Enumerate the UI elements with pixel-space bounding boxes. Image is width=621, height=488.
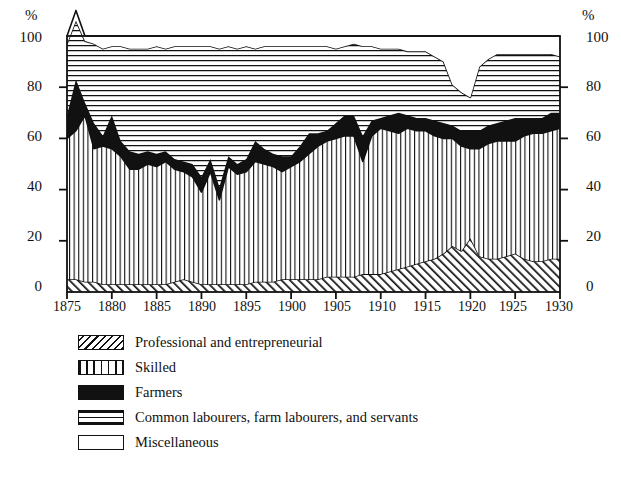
legend-swatch-diagonal-hatch-icon <box>78 335 124 350</box>
stacked-area-plot <box>0 0 621 310</box>
legend-item-miscellaneous: Miscellaneous <box>78 430 548 455</box>
legend-label-miscellaneous: Miscellaneous <box>135 435 219 451</box>
legend-item-professional: Professional and entrepreneurial <box>78 330 548 355</box>
legend-label-professional: Professional and entrepreneurial <box>135 335 323 351</box>
chart-figure: % % 100 80 60 40 20 0 100 80 60 40 20 0 … <box>0 0 621 488</box>
legend-swatch-vertical-lines-icon <box>78 360 124 375</box>
legend-label-common-labourers: Common labourers, farm labourers, and se… <box>135 410 418 426</box>
chart-legend: Professional and entrepreneurial Skilled… <box>78 330 548 455</box>
legend-item-common-labourers: Common labourers, farm labourers, and se… <box>78 405 548 430</box>
legend-label-farmers: Farmers <box>135 385 183 401</box>
legend-swatch-horizontal-lines-icon <box>78 410 124 425</box>
legend-swatch-blank-icon <box>78 435 124 450</box>
boundary-line <box>67 10 560 36</box>
legend-label-skilled: Skilled <box>135 360 176 376</box>
legend-swatch-solid-black-icon <box>78 385 124 400</box>
legend-item-skilled: Skilled <box>78 355 548 380</box>
legend-item-farmers: Farmers <box>78 380 548 405</box>
